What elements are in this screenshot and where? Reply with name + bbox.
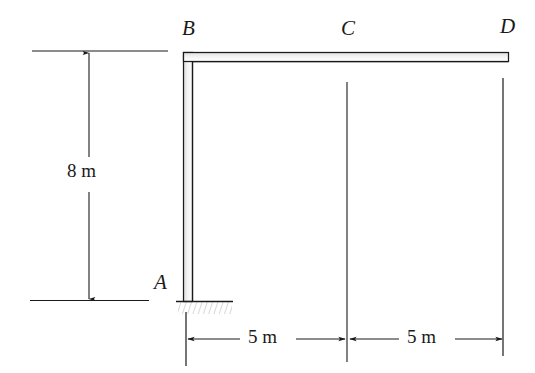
- node-label-a: A: [154, 272, 167, 293]
- dimension-label-span-bc-5m: 5 m: [248, 327, 277, 346]
- node-label-b: B: [182, 18, 195, 39]
- frame-corner-B: [193, 62, 509, 302]
- frame-member-column-AB: [184, 53, 193, 302]
- node-label-d: D: [500, 16, 515, 37]
- diagram-canvas: [0, 0, 535, 373]
- dimension-label-height-8m: 8 m: [67, 161, 96, 180]
- dimension-label-span-cd-5m: 5 m: [407, 327, 436, 346]
- node-label-c: C: [341, 18, 355, 39]
- structural-frame-diagram: A B C D 8 m 5 m 5 m: [0, 0, 535, 373]
- frame-member-beam-BD: [184, 53, 509, 62]
